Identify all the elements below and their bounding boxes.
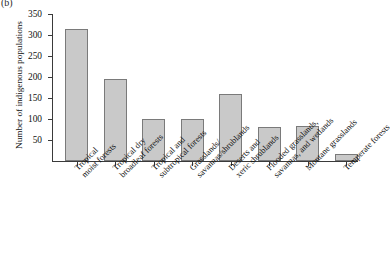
y-tick-label: 250 bbox=[28, 51, 42, 61]
y-tick: 150 bbox=[48, 98, 52, 99]
y-tick: 350 bbox=[48, 14, 52, 15]
y-tick-label: 200 bbox=[28, 72, 42, 82]
y-tick: 100 bbox=[48, 119, 52, 120]
y-tick-label: 300 bbox=[28, 30, 42, 40]
panel-label: (b) bbox=[1, 0, 13, 8]
y-tick-label: 50 bbox=[33, 135, 42, 145]
y-tick-label: 150 bbox=[28, 93, 42, 103]
figure-caption bbox=[0, 264, 370, 272]
y-tick: 250 bbox=[48, 56, 52, 57]
y-tick-label: 100 bbox=[28, 114, 42, 124]
y-tick-label: 350 bbox=[28, 9, 42, 19]
y-axis-title: Number of indigenous populations bbox=[14, 10, 24, 160]
y-axis-line bbox=[52, 14, 53, 162]
y-tick: 50 bbox=[48, 140, 52, 141]
y-tick: 200 bbox=[48, 77, 52, 78]
y-tick: 300 bbox=[48, 35, 52, 36]
bar bbox=[65, 29, 88, 161]
